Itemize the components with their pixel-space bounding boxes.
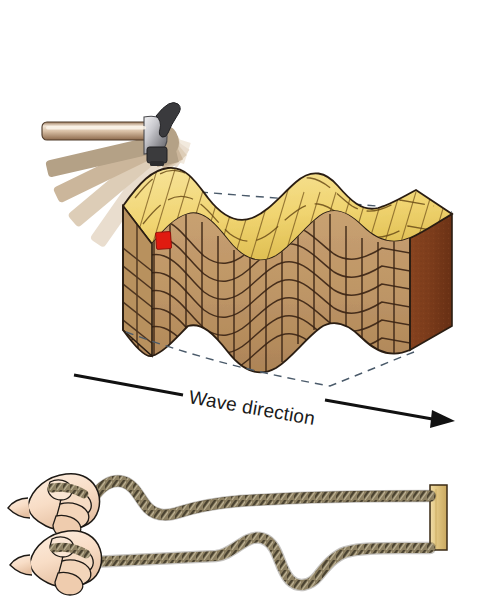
- illustration-canvas: Wave direction: [0, 0, 478, 608]
- hammer-face-edge: [150, 161, 164, 166]
- wave-illustration: Wave direction: [0, 0, 478, 608]
- hammer-handle-highlight: [46, 126, 146, 130]
- hammer-striking-face: [147, 147, 167, 163]
- displaced-particle-marker: [155, 231, 171, 249]
- hammer-handle: [42, 122, 150, 140]
